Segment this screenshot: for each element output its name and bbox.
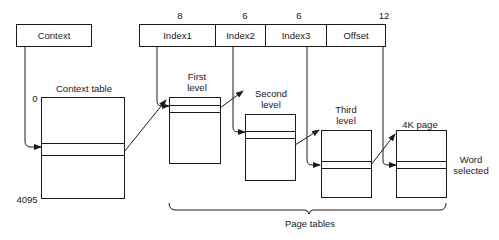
- context-table: [41, 97, 125, 199]
- third-level-selected-entry: [322, 161, 371, 169]
- word-selected-label: Word selected: [446, 154, 496, 176]
- second-level-table: [245, 114, 296, 181]
- third-level-title: Third level: [320, 104, 372, 126]
- second-level-selected-entry: [246, 131, 295, 139]
- first-level-table: [169, 97, 221, 164]
- page-tables-label: Page tables: [270, 218, 350, 229]
- context-table-end-index: 4095: [14, 194, 40, 205]
- page-selected-word: [397, 161, 446, 169]
- first-level-selected-entry: [170, 105, 220, 113]
- context-table-selected-entry: [42, 143, 124, 156]
- context-table-title: Context table: [42, 83, 126, 94]
- page-4k: [396, 130, 447, 198]
- page-title: 4K page: [394, 119, 446, 130]
- third-level-table: [321, 130, 372, 198]
- second-level-title: Second level: [244, 88, 298, 110]
- first-level-title: First level: [172, 71, 222, 93]
- context-table-start-index: 0: [30, 93, 40, 104]
